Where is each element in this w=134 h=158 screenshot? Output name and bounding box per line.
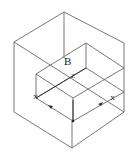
axis-label-x-right: X — [110, 95, 115, 102]
wireframe-svg — [0, 0, 134, 158]
region-label-b: B — [64, 56, 71, 67]
outer-cube — [14, 12, 124, 148]
origin-dot — [72, 120, 75, 123]
axis-label-z: Z — [71, 73, 75, 80]
diagram-canvas: B Z X X — [0, 0, 134, 158]
axis-label-x-left: X — [33, 94, 38, 101]
inner-box — [36, 43, 124, 121]
axes — [36, 68, 103, 122]
